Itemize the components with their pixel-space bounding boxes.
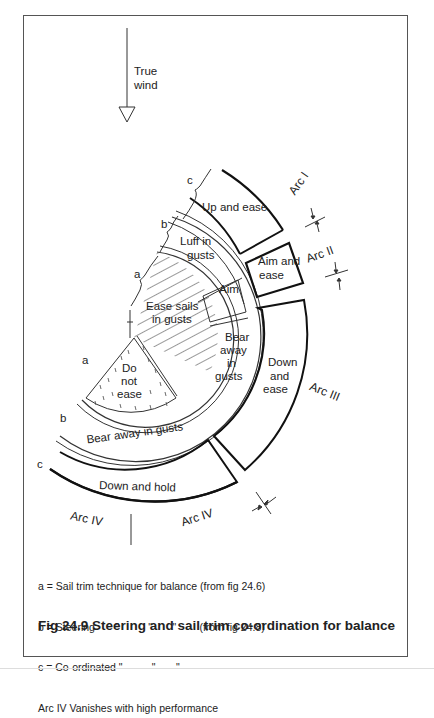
- ring-letter-a-upper: a: [134, 268, 141, 280]
- zone-aim-and-ease-1: Aim and: [258, 255, 300, 267]
- ease-sails-hatched-sector: [134, 252, 218, 372]
- ring-letter-c-upper: c: [187, 174, 193, 186]
- wind-arrow-icon: [119, 28, 135, 122]
- arc-four-left-label: Arc IV: [69, 508, 104, 528]
- zone-up-and-ease: Up and ease: [202, 201, 267, 213]
- zone-bear-away-2: away: [220, 344, 247, 356]
- ring-letter-b-upper: b: [161, 218, 167, 230]
- zone-ease-sails-2: in gusts: [152, 313, 192, 325]
- zone-aim: Aim: [219, 283, 239, 295]
- wind-label-1: True: [134, 65, 157, 77]
- zone-ease-sails-1: Ease sails: [146, 300, 199, 312]
- zone-luff-2: gusts: [187, 249, 215, 261]
- zone-down-and-hold: Down and hold: [99, 479, 176, 494]
- legend-line-arc: Arc IV Vanishes with high performance: [38, 702, 265, 716]
- ring-letter-c-lower: c: [37, 458, 43, 470]
- width-marker-arc4: [252, 492, 276, 514]
- ring-letter-b-lower: b: [60, 412, 66, 424]
- wind-label-2: wind: [133, 79, 158, 91]
- zone-down-and-ease-3: ease: [263, 383, 288, 395]
- zone-bear-away-4: gusts: [215, 370, 243, 382]
- zone-do-not-3: ease: [117, 388, 142, 400]
- zone-do-not-2: not: [121, 375, 138, 387]
- zone-do-not-1: Do: [122, 362, 137, 374]
- arc-one-label: Arc I: [286, 169, 312, 197]
- zone-bear-away-3: in: [227, 357, 236, 369]
- zone-luff-1: Luff in: [180, 235, 211, 247]
- arc-one-band: [222, 170, 283, 230]
- arc-two-label: Arc II: [304, 243, 335, 266]
- page-edge: [0, 668, 434, 669]
- width-marker-arc1: [305, 208, 325, 232]
- zone-down-and-ease-1: Down: [268, 356, 297, 368]
- ring-letter-a-lower: a: [82, 354, 89, 366]
- zone-bear-away-in-gusts: Bear away in gusts: [86, 420, 184, 445]
- arc-three-label: Arc III: [308, 379, 342, 404]
- legend-line-a: a = Sail trim technique for balance (fro…: [38, 580, 265, 594]
- zone-down-and-ease-2: and: [270, 370, 289, 382]
- legend: a = Sail trim technique for balance (fro…: [38, 553, 265, 718]
- arc-four-right-label: Arc IV: [179, 506, 214, 529]
- zone-aim-and-ease-2: ease: [259, 269, 284, 281]
- width-marker-arc2: [325, 262, 348, 290]
- figure-caption: Fig 24.9 Steering and sail trim co-ordin…: [38, 618, 395, 633]
- zone-bear-away-1: Bear: [225, 331, 249, 343]
